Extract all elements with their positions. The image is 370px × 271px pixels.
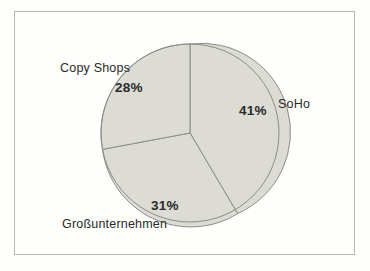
- pie-slice-copy-shops[interactable]: [101, 44, 190, 149]
- pie-graphic: [0, 0, 370, 271]
- pie-category-label-grossunternehmen: Großunternehmen: [62, 218, 167, 231]
- pie-category-label-copy-shops: Copy Shops: [60, 62, 130, 75]
- pie-value-label-grossunternehmen: 31%: [151, 199, 179, 213]
- pie-value-label-soho: 41%: [239, 104, 267, 118]
- pie-chart: Copy Shops 28% SoHo 41% Großunternehmen …: [0, 0, 370, 271]
- chart-canvas: Copy Shops 28% SoHo 41% Großunternehmen …: [0, 0, 370, 271]
- pie-category-label-soho: SoHo: [278, 98, 310, 111]
- pie-value-label-copy-shops: 28%: [115, 81, 143, 95]
